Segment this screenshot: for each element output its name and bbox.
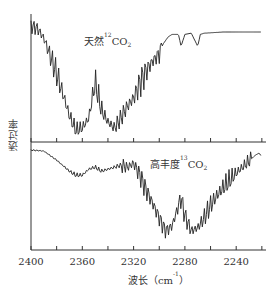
top-x-ticks <box>31 138 262 142</box>
series-natural-12co2 <box>31 21 261 135</box>
x-tick-label: 2400 <box>18 256 43 267</box>
label-prefix: 高丰度 <box>150 159 180 170</box>
panel-label-enriched-13co2: 高丰度13CO2 <box>150 156 207 171</box>
series-enriched-13co2 <box>31 150 261 239</box>
label-formula: CO <box>188 159 204 170</box>
label-subscript: 2 <box>204 164 208 171</box>
top-panel <box>31 14 266 142</box>
x-axis-label-text: 波长（cm <box>128 275 173 286</box>
y-axis-label: 透过率 <box>6 118 21 151</box>
label-prefix: 天然 <box>84 36 104 47</box>
x-tick-label: 2360 <box>70 256 95 267</box>
label-formula: CO <box>112 36 128 47</box>
bottom-x-ticks <box>31 246 262 250</box>
x-axis-label-close: ） <box>179 275 189 286</box>
label-isotope: 12 <box>104 31 112 38</box>
x-tick-label: 2240 <box>223 256 248 267</box>
panel-label-natural-12co2: 天然12CO2 <box>84 33 131 48</box>
x-tick-label: 2280 <box>172 256 197 267</box>
figure-caption-cutoff <box>0 292 279 297</box>
bottom-panel <box>31 142 266 250</box>
x-tick-label: 2320 <box>121 256 146 267</box>
label-subscript: 2 <box>128 41 132 48</box>
x-axis-label-unit-exponent: -1 <box>173 270 179 277</box>
ir-spectrum-figure <box>0 0 279 297</box>
x-axis-label: 波长（cm-1） <box>128 272 189 287</box>
label-isotope: 13 <box>180 154 188 161</box>
